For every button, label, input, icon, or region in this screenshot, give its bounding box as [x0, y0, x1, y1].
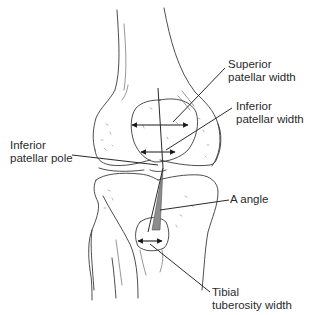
label-superior-patellar-width: Superior patellar width: [228, 58, 296, 84]
femur: [93, 8, 221, 166]
label-inferior-width-line1: Inferior: [236, 100, 304, 113]
label-tibial-line2: tuberosity width: [212, 299, 292, 312]
label-a-angle-line1: A angle: [230, 193, 268, 206]
label-tibial-line1: Tibial: [212, 286, 292, 299]
label-pole-line2: patellar pole: [10, 152, 73, 165]
label-pole-line1: Inferior: [10, 139, 73, 152]
label-inferior-patellar-width: Inferior patellar width: [236, 100, 304, 126]
tibia: [91, 168, 218, 298]
label-inferior-width-line2: patellar width: [236, 113, 304, 126]
label-superior-line1: Superior: [228, 58, 296, 71]
bone-texture: [101, 108, 209, 227]
label-superior-line2: patellar width: [228, 71, 296, 84]
label-tibial-tuberosity-width: Tibial tuberosity width: [212, 286, 292, 312]
label-inferior-patellar-pole: Inferior patellar pole: [10, 139, 73, 165]
a-angle-wedge: [148, 168, 163, 232]
label-a-angle: A angle: [230, 193, 268, 206]
